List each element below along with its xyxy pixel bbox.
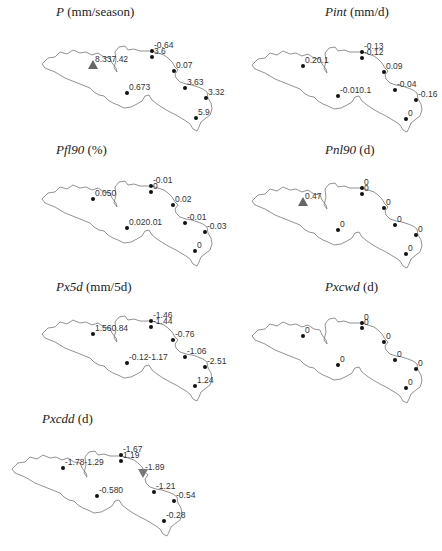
- basin-map: -1.78-1.29-1.671.19-1.89-1.21-0.54-0.28-…: [0, 405, 221, 551]
- station-value-label: -0.28: [166, 510, 186, 520]
- map-panel-pxcdd: Pxcdd (d) -1.78-1.29-1.671.19-1.89-1.21-…: [0, 405, 221, 551]
- station-value-label: 0: [386, 331, 391, 341]
- station-value-label: 3.6: [154, 46, 166, 56]
- station-value-label: -0.01: [187, 212, 207, 222]
- station-value-label: 0.47: [305, 191, 322, 201]
- station-value-label: -0.54: [176, 490, 196, 500]
- map-panel-p: P (mm/season) 8.337.42-0.643.60.073.633.…: [0, 0, 221, 138]
- station-value-label: -1.06: [187, 346, 207, 356]
- station-value-label: 0: [305, 325, 310, 335]
- map-panel-px5d: Px5d (mm/5d) 1.560.84-1.46-1.44-0.76-1.0…: [0, 275, 221, 413]
- map-panel-pxcwd: Pxcwd (d) 00000000: [221, 275, 442, 413]
- basin-map: 8.337.42-0.643.60.073.633.325.90.673: [0, 0, 221, 138]
- station-value-label: -0.12: [364, 47, 384, 57]
- station-value-label: -1.78-1.29: [65, 457, 104, 467]
- station-value-label: 8.337.42: [95, 54, 128, 64]
- station-value-label: 0: [408, 377, 413, 387]
- map-panel-pint: Pint (mm/d) 0.20.1-0.13-0.120.09-0.04-0.…: [221, 0, 442, 138]
- station-value-label: 3.63: [187, 77, 204, 87]
- station-value-label: 0.02: [175, 194, 192, 204]
- station-value-label: 0: [340, 219, 345, 229]
- station-value-label: 1.24: [197, 375, 214, 385]
- station-value-label: 0: [408, 108, 413, 118]
- station-value-label: -0.76: [175, 329, 195, 339]
- station-value-label: 0: [408, 243, 413, 253]
- station-value-label: 0: [364, 183, 369, 193]
- station-value-label: 0: [386, 197, 391, 207]
- station-value-label: 0.09: [386, 61, 403, 71]
- station-value-label: 5.9: [198, 107, 210, 117]
- basin-map: 1.560.84-1.46-1.44-0.76-1.06-2.511.24-0.…: [0, 275, 221, 413]
- basin-map: 00000000: [221, 275, 442, 413]
- station-value-label: 0.07: [176, 60, 193, 70]
- station-value-label: 0.020.01: [129, 217, 162, 227]
- station-value-label: -0.580: [99, 485, 123, 495]
- station-value-label: 0: [153, 181, 158, 191]
- basin-map: 0.20.1-0.13-0.120.09-0.04-0.160-0.010.1: [221, 0, 442, 138]
- station-value-label: 0: [397, 349, 402, 359]
- station-value-label: 0: [397, 214, 402, 224]
- station-value-label: 0.050: [95, 188, 117, 198]
- station-value-label: 0: [418, 358, 423, 368]
- map-panel-pnl90: Pnl90 (d) 0.470000000: [221, 140, 442, 278]
- station-value-label: 1.560.84: [95, 323, 128, 333]
- station-value-label: -0.010.1: [340, 85, 371, 95]
- station-value-label: 0: [340, 354, 345, 364]
- station-value-label: -0.04: [397, 79, 417, 89]
- station-value-label: -1.21: [156, 481, 176, 491]
- station-value-label: -1.89: [145, 462, 165, 472]
- basin-map: 0.050-0.0100.02-0.01-0.0300.020.01: [0, 140, 221, 278]
- station-value-label: 1.19: [123, 450, 140, 460]
- station-value-label: 0: [364, 317, 369, 327]
- station-value-label: 0: [418, 224, 423, 234]
- map-panel-pfl90: Pfl90 (%) 0.050-0.0100.02-0.01-0.0300.02…: [0, 140, 221, 278]
- station-value-label: 0.20.1: [305, 55, 329, 65]
- station-value-label: -1.44: [153, 316, 173, 326]
- station-value-label: -0.16: [418, 89, 438, 99]
- basin-map: 0.470000000: [221, 140, 442, 278]
- station-value-label: 0.673: [129, 82, 151, 92]
- station-value-label: -0.12-1.17: [129, 352, 168, 362]
- station-value-label: 0: [197, 240, 202, 250]
